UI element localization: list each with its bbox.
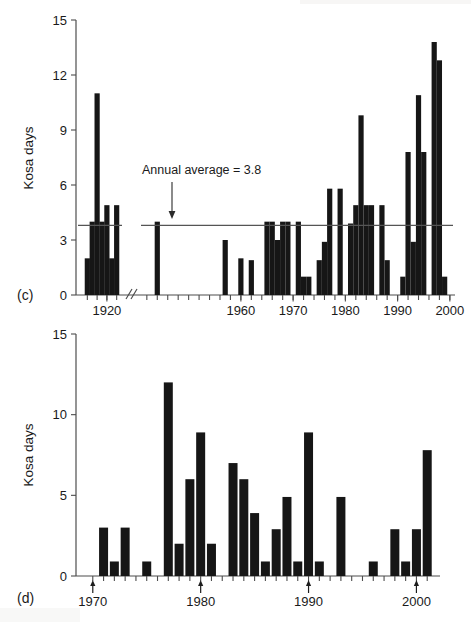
bar-c-1991	[400, 277, 405, 295]
y-tick-label-c-0: 0	[60, 288, 67, 303]
bar-c-1981	[348, 224, 353, 296]
bar-d-1984	[239, 479, 248, 576]
bar-d-1979	[185, 479, 194, 576]
bar-d-1988	[282, 497, 291, 576]
bar-d-1991	[315, 561, 324, 576]
bar-c-1966	[270, 222, 275, 295]
bar-c-1962	[249, 260, 254, 295]
bar-d-1980	[196, 432, 205, 576]
y-tick-group-d	[71, 334, 76, 576]
y-tick-label-d-5: 5	[60, 488, 67, 503]
bar-c-1976	[322, 242, 327, 295]
bar-c-1916	[85, 258, 90, 295]
bar-d-2001	[423, 450, 432, 576]
x-tick-arrow-head-d-1970	[90, 580, 95, 586]
bar-c-1997	[432, 42, 437, 295]
x-tick-label-c-1990: 1990	[383, 303, 412, 318]
y-tick-label-d-10: 10	[53, 407, 67, 422]
y-tick-label-d-15: 15	[53, 327, 67, 342]
bar-c-1972	[301, 277, 306, 295]
bar-c-1985	[369, 205, 374, 295]
bar-c-1921	[109, 258, 114, 295]
annotation-arrow-head-c	[169, 211, 176, 219]
bar-c-1971	[296, 222, 301, 295]
x-tick-arrow-head-d-2000	[414, 580, 419, 586]
figure-kosa-days: 03691215 192019601970198019902000 Annual…	[0, 0, 471, 622]
bar-d-1998	[390, 529, 399, 576]
x-tick-arrow-head-d-1990	[306, 580, 311, 586]
y-axis-title-d: Kosa days	[21, 423, 36, 486]
x-tick-label-d-1970: 1970	[78, 594, 107, 609]
bar-c-1975	[317, 260, 322, 295]
bar-group-d	[99, 382, 432, 576]
x-tick-label-group-d: 1970198019902000	[78, 594, 431, 609]
bar-d-1977	[164, 382, 173, 576]
y-tick-label-c-3: 3	[60, 233, 67, 248]
bar-d-1975	[142, 561, 151, 576]
bar-d-1973	[121, 528, 130, 576]
bar-c-1967	[275, 240, 280, 295]
x-tick-label-c-2000: 2000	[435, 303, 464, 318]
bar-c-1944	[155, 222, 160, 295]
bar-c-1965	[264, 222, 269, 295]
bar-d-1981	[207, 544, 216, 576]
bar-c-1969	[285, 222, 290, 295]
bar-c-1957	[223, 240, 228, 295]
bar-c-1982	[353, 205, 358, 295]
x-tick-arrow-group-d	[90, 580, 419, 593]
x-tick-arrow-head-d-1980	[198, 580, 203, 586]
y-tick-group-c	[71, 20, 76, 295]
bar-c-1983	[358, 115, 363, 295]
bar-c-1984	[364, 205, 369, 295]
y-tick-label-c-6: 6	[60, 178, 67, 193]
bar-c-1988	[385, 260, 390, 295]
x-tick-label-c-1970: 1970	[279, 303, 308, 318]
bar-d-1999	[401, 561, 410, 576]
x-tick-group-d	[93, 576, 427, 581]
bar-d-1983	[229, 463, 238, 576]
bar-d-2000	[412, 529, 421, 576]
bar-chart-c: 03691215 192019601970198019902000 Annual…	[0, 0, 471, 318]
chart-panel-d: 051015 1970198019902000 Kosa days (d)	[0, 318, 471, 622]
annotation-text-c: Annual average = 3.8	[142, 163, 261, 177]
bar-c-1993	[411, 242, 416, 295]
bar-d-1985	[250, 513, 259, 576]
bar-d-1987	[272, 529, 281, 576]
bar-d-1996	[369, 561, 378, 576]
bar-c-1999	[442, 277, 447, 295]
bar-d-1989	[293, 561, 302, 576]
bar-c-1992	[405, 152, 410, 295]
bar-c-1917	[90, 222, 95, 295]
bar-c-1979	[338, 189, 343, 295]
x-tick-label-d-1990: 1990	[294, 594, 323, 609]
bar-d-1990	[304, 432, 313, 576]
bar-c-1994	[416, 95, 421, 295]
bar-chart-d: 051015 1970198019902000 Kosa days (d)	[0, 318, 471, 622]
panel-label-d: (d)	[17, 590, 34, 606]
x-tick-label-c-1980: 1980	[331, 303, 360, 318]
bar-c-1987	[379, 205, 384, 295]
bar-c-1960	[238, 258, 243, 295]
bar-d-1986	[261, 561, 270, 576]
y-tick-label-group-d: 051015	[53, 327, 67, 584]
bar-d-1972	[110, 561, 119, 576]
axis-break-marker-c	[126, 289, 137, 299]
bar-d-1978	[175, 544, 184, 576]
bar-group-c	[85, 42, 448, 295]
y-tick-label-group-c: 03691215	[53, 13, 67, 303]
bar-c-1998	[437, 60, 442, 295]
bar-c-1918	[95, 93, 100, 295]
x-tick-label-d-2000: 2000	[402, 594, 431, 609]
bar-d-1993	[336, 497, 345, 576]
panel-label-c: (c)	[17, 287, 33, 303]
y-tick-label-d-0: 0	[60, 569, 67, 584]
annotation-group-c: Annual average = 3.8	[142, 163, 261, 219]
bar-c-1920	[104, 205, 109, 295]
y-tick-label-c-15: 15	[53, 13, 67, 28]
y-tick-label-c-12: 12	[53, 68, 67, 83]
x-tick-label-c-1960: 1960	[226, 303, 255, 318]
bar-c-1968	[280, 222, 285, 295]
x-tick-label-c-1920: 1920	[92, 303, 121, 318]
bar-d-1971	[99, 528, 108, 576]
bar-c-1973	[306, 277, 311, 295]
